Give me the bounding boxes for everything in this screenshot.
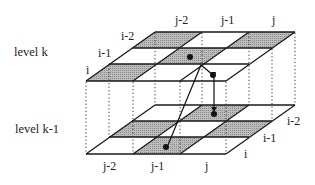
top-row-i-1: i-1 xyxy=(98,46,111,60)
bottom-dot-a xyxy=(211,111,217,117)
top-col-j: j xyxy=(271,13,275,27)
grid-diagram: level k level k-1 i i-1 i-2 j-2 j-1 j j-… xyxy=(0,0,315,185)
bottom-row-i-1: i-1 xyxy=(263,131,276,145)
top-dot-a xyxy=(187,54,193,60)
diagram-svg: level k level k-1 i i-1 i-2 j-2 j-1 j j-… xyxy=(0,0,315,185)
bottom-dot-b xyxy=(163,144,169,150)
bottom-grid xyxy=(86,105,295,154)
top-row-i: i xyxy=(86,63,90,77)
top-col-j-2: j-2 xyxy=(174,13,188,27)
bottom-col-j-1: j-1 xyxy=(150,159,164,173)
top-dot-b xyxy=(210,72,216,78)
level-k-1-label: level k-1 xyxy=(15,122,59,136)
bottom-row-i-2: i-2 xyxy=(287,114,300,128)
bottom-col-j: j xyxy=(204,159,208,173)
bottom-col-j-2: j-2 xyxy=(102,159,116,173)
level-k-label: level k xyxy=(14,45,48,59)
top-col-j-1: j-1 xyxy=(220,13,234,27)
top-row-i-2: i-2 xyxy=(121,29,134,43)
bottom-row-i: i xyxy=(244,147,248,161)
